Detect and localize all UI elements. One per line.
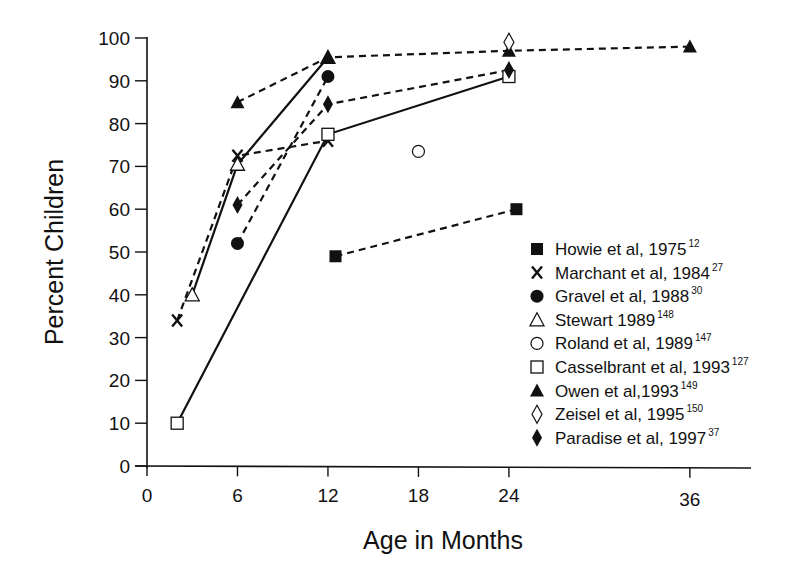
filled-diamond-marker-icon (532, 429, 542, 447)
legend-item: Owen et al,1993149 (530, 380, 698, 401)
filled-square-marker-icon (330, 250, 342, 262)
legend-item: Gravel et al, 198830 (531, 285, 703, 306)
y-tick-label: 70 (109, 156, 130, 177)
x-marker-icon (172, 314, 182, 326)
legend-label: Howie et al, 197512 (555, 238, 700, 259)
y-axis-title: Percent Children (40, 159, 68, 345)
y-tick-label: 60 (109, 199, 130, 220)
x-axis-line (135, 466, 751, 468)
series-line (177, 77, 509, 424)
y-tick-label: 100 (98, 28, 130, 49)
y-tick-label: 20 (109, 370, 130, 391)
filled-triangle-marker-icon (230, 95, 244, 108)
legend-label: Roland et al, 1989147 (555, 332, 712, 353)
series-line (336, 209, 517, 256)
legend-label: Gravel et al, 198830 (555, 285, 703, 306)
legend-label: Zeisel et al, 1995150 (555, 403, 704, 424)
filled-circle-marker-icon (531, 290, 544, 303)
legend-item: Stewart 1989148 (530, 309, 674, 330)
legend-label: Stewart 1989148 (555, 309, 674, 330)
y-tick-label: 50 (109, 242, 130, 263)
legend: Howie et al, 197512Marchant et al, 19842… (530, 238, 749, 448)
open-triangle-marker-icon (530, 313, 544, 326)
legend-item: Zeisel et al, 1995150 (532, 403, 704, 424)
x-tick-label: 0 (142, 485, 153, 506)
legend-item: Marchant et al, 198427 (532, 262, 724, 283)
open-square-marker-icon (322, 128, 334, 140)
open-diamond-marker-icon (504, 33, 514, 51)
x-marker-icon (532, 267, 542, 279)
legend-item: Casselbrant et al, 1993127 (531, 356, 749, 377)
open-circle-marker-icon (531, 337, 543, 349)
chart: 01020304050607080901000612182436 Howie e… (0, 0, 791, 583)
x-tick-label: 36 (679, 489, 700, 510)
legend-item: Howie et al, 197512 (531, 238, 700, 259)
y-tick-label: 30 (109, 328, 130, 349)
legend-item: Roland et al, 1989147 (531, 332, 712, 353)
open-diamond-marker-icon (532, 405, 542, 423)
legend-item: Paradise et al, 199737 (532, 427, 720, 448)
filled-diamond-marker-icon (323, 95, 333, 113)
series-line (177, 141, 328, 321)
x-tick-label: 6 (232, 485, 243, 506)
legend-label: Marchant et al, 198427 (555, 262, 724, 283)
y-tick-label: 90 (109, 71, 130, 92)
y-tick-label: 80 (109, 114, 130, 135)
series-line (192, 57, 328, 294)
filled-diamond-marker-icon (232, 196, 242, 214)
legend-label: Owen et al,1993149 (555, 380, 698, 401)
x-tick-label: 12 (317, 485, 338, 506)
filled-triangle-marker-icon (530, 384, 544, 397)
x-axis-title: Age in Months (363, 526, 523, 554)
filled-circle-marker-icon (321, 70, 334, 83)
filled-triangle-marker-icon (321, 50, 335, 63)
y-tick-label: 10 (109, 413, 130, 434)
series-line (238, 47, 690, 103)
x-tick-label: 24 (498, 485, 520, 506)
filled-square-marker-icon (531, 243, 543, 255)
open-square-marker-icon (531, 361, 543, 373)
filled-square-marker-icon (510, 203, 522, 215)
y-tick-label: 0 (119, 456, 130, 477)
legend-label: Paradise et al, 199737 (555, 427, 720, 448)
open-square-marker-icon (171, 417, 183, 429)
legend-label: Casselbrant et al, 1993127 (555, 356, 749, 377)
open-circle-marker-icon (412, 145, 424, 157)
filled-circle-marker-icon (231, 237, 244, 250)
y-tick-label: 40 (109, 285, 130, 306)
x-tick-label: 18 (408, 485, 429, 506)
